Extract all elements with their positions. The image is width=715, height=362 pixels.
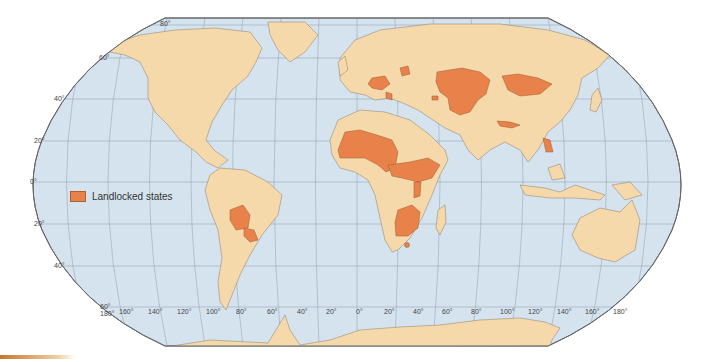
svg-text:140°: 140° [148, 308, 163, 315]
great-lakes-states [414, 182, 421, 198]
svg-text:80°: 80° [236, 308, 247, 315]
svg-text:160°: 160° [585, 308, 600, 315]
decorative-bar [0, 355, 75, 359]
svg-text:20°: 20° [34, 220, 45, 227]
legend: Landlocked states [70, 191, 173, 202]
svg-text:40°: 40° [297, 308, 308, 315]
lesotho [405, 243, 410, 248]
svg-text:20°: 20° [384, 308, 395, 315]
caucasus-states [432, 96, 438, 100]
legend-swatch-landlocked [70, 191, 86, 202]
svg-text:80°: 80° [471, 308, 482, 315]
svg-text:40°: 40° [413, 308, 424, 315]
svg-text:20°: 20° [326, 308, 337, 315]
svg-text:0°: 0° [356, 308, 363, 315]
svg-text:60°: 60° [100, 303, 111, 310]
svg-text:60°: 60° [267, 308, 278, 315]
svg-text:120°: 120° [528, 308, 543, 315]
svg-text:120°: 120° [177, 308, 192, 315]
svg-text:20°: 20° [34, 137, 45, 144]
svg-text:0°: 0° [30, 178, 37, 185]
svg-text:140°: 140° [557, 308, 572, 315]
svg-text:180°: 180° [100, 310, 115, 317]
svg-text:40°: 40° [54, 95, 65, 102]
svg-text:60°: 60° [442, 308, 453, 315]
svg-text:40°: 40° [54, 262, 65, 269]
belarus [400, 66, 410, 76]
svg-text:100°: 100° [206, 308, 221, 315]
svg-text:80°: 80° [160, 20, 171, 27]
svg-text:160°: 160° [119, 308, 134, 315]
world-map: 80° 60° 40° 20° 0° 20° 40° 60° 180° 160°… [0, 0, 715, 362]
svg-text:180°: 180° [613, 308, 628, 315]
legend-label: Landlocked states [92, 191, 173, 202]
svg-text:60°: 60° [99, 54, 110, 61]
svg-text:100°: 100° [500, 308, 515, 315]
